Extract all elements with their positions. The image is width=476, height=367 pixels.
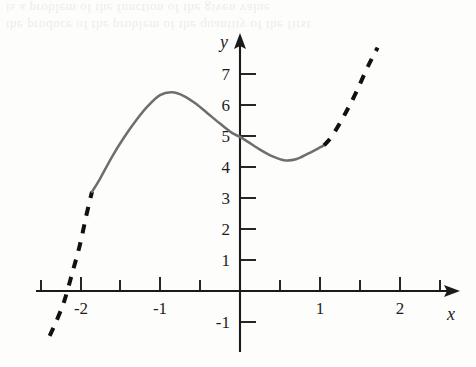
x-tick-label--1: -1 <box>153 299 167 318</box>
figure-container: the produce of the problem of the quanti… <box>0 0 476 367</box>
y-axis-label: y <box>218 32 228 52</box>
y-tick-label--1: -1 <box>216 313 230 332</box>
y-tick-label-1: 1 <box>222 251 231 270</box>
x-tick-label-2: 2 <box>396 299 405 318</box>
coordinate-plot: -2 -1 1 2 x 7 6 5 4 3 2 1 -1 y <box>0 0 476 367</box>
y-axis-group: 7 6 5 4 3 2 1 -1 y <box>216 32 256 352</box>
y-tick-label-2: 2 <box>222 220 231 239</box>
y-tick-label-4: 4 <box>222 158 231 177</box>
y-tick-label-7: 7 <box>222 65 231 84</box>
x-tick-label--2: -2 <box>74 299 88 318</box>
curve-group <box>50 48 378 336</box>
curve-solid-segment <box>92 92 324 192</box>
x-axis-label: x <box>446 304 455 324</box>
y-tick-label-6: 6 <box>222 96 231 115</box>
curve-dashed-right-extension <box>324 48 378 146</box>
y-tick-label-3: 3 <box>222 189 231 208</box>
x-axis-group: -2 -1 1 2 x <box>36 277 460 324</box>
x-tick-label-1: 1 <box>316 299 325 318</box>
